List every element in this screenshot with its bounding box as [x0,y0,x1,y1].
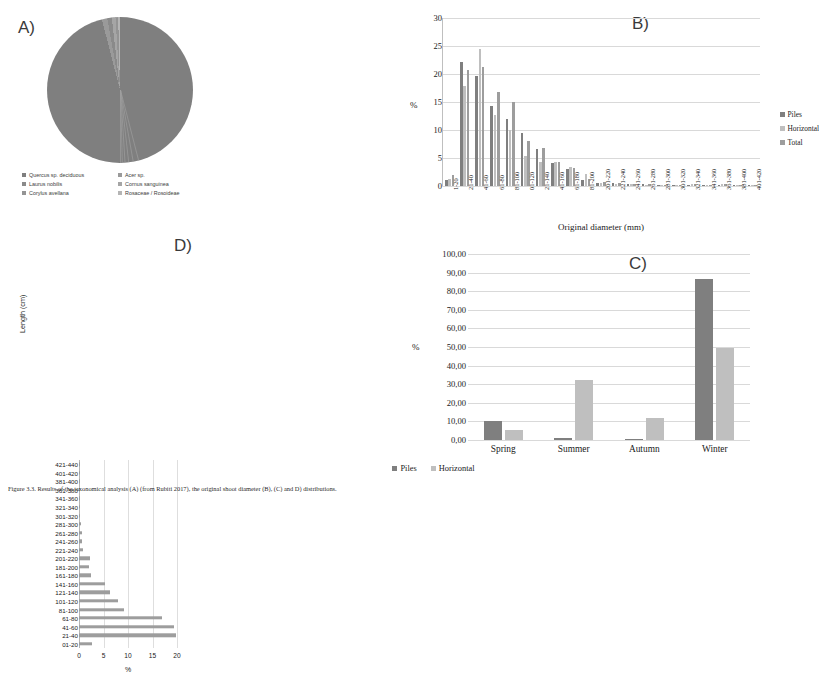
legend-label: Horizontal [788,124,819,133]
legend-label: Piles [788,110,802,119]
category-label: 141-160 [55,580,78,587]
panel-c-x-tick-labels: SpringSummerAutumnWinter [468,444,750,460]
bar-group [624,18,639,186]
panel-b-y-axis: 051015202530 [420,12,442,192]
pie-legend-item: Rosaceae / Rosoideae [118,190,208,196]
bar [79,616,162,619]
bar-group [539,254,610,440]
bar [79,565,89,568]
bar [585,174,588,186]
x-tick-label: 21-40 [467,175,474,190]
panel-a-letter: A) [18,18,35,38]
x-tick-label: 241-260 [634,169,641,190]
y-tick-label: 40,00 [447,361,466,371]
bar [695,279,713,440]
bar [79,608,124,611]
bar [642,184,645,186]
x-tick-label: 1-20 [452,178,459,190]
x-tick-label: 81-200 [588,172,595,190]
x-tick-label: 201-220 [604,169,611,190]
bar-group [518,18,533,186]
bar [536,149,539,186]
legend-item: Horizontal [431,464,475,473]
pie-body [47,17,193,163]
bar [506,119,509,186]
y-tick-label: 15 [434,97,443,107]
bar [494,115,497,186]
legend-item: Piles [780,110,819,119]
category-label: 121-140 [55,589,78,596]
legend-label: Corylus avellana [29,190,69,196]
legend-swatch-icon [118,182,122,186]
y-tick-label: 70,00 [447,305,466,315]
x-tick-label: 221-240 [619,169,626,190]
category-label: 61-80 [62,615,78,622]
x-tick-label: Winter [702,444,728,454]
bar [475,76,478,186]
bar-group [593,18,608,186]
y-tick-label: 10,00 [447,416,466,426]
bar [718,185,721,186]
bar [79,497,80,500]
pie-legend-item: Corylus avellana [22,190,118,196]
bar [630,184,633,186]
bar [79,548,83,551]
bar [566,169,569,186]
bar-group [548,18,563,186]
bar [79,625,174,628]
bar-group [745,18,760,186]
legend-swatch-icon [780,112,785,117]
bar [79,480,80,483]
y-tick-label: 80,00 [447,286,466,296]
y-tick-label: 20,00 [447,398,466,408]
bar [575,380,593,440]
category-label: 01-20 [62,640,78,647]
bar [596,183,599,186]
bar [702,185,705,186]
bar [448,179,451,186]
category-label: 241-260 [55,538,78,545]
bar-group [442,18,457,186]
x-tick-label: 41-160 [558,172,565,190]
y-tick-label: 30 [434,13,443,23]
bar [645,185,648,186]
y-tick-label: 25 [434,41,443,51]
pie-legend-item: Cornus sanguinea [118,181,208,187]
panel-c-y-axis: 0,0010,0020,0030,0040,0050,0060,0070,008… [422,250,466,440]
bar [600,183,603,186]
bar [490,106,493,186]
legend-label: Piles [400,464,416,473]
bar [79,505,80,508]
panel-d-x-axis-title: % [79,666,177,673]
bar-group [699,18,714,186]
panel-a-pie-chart: A) Quercus sp. deciduousAcer sp.Laurus n… [0,0,210,228]
bar-group [715,18,730,186]
bar [569,167,572,186]
category-label: 161-180 [55,572,78,579]
category-label: 301-320 [55,512,78,519]
bar [539,162,542,186]
bar-group [487,18,502,186]
legend-label: Rosaceae / Rosoideae [125,190,180,196]
legend-swatch-icon [118,191,122,195]
panel-d-y-axis-title: Length (cm) [18,295,27,333]
bar [524,156,527,186]
x-tick-label: 20 [173,652,180,659]
x-tick-label: 0 [77,652,81,659]
grid-line [468,440,750,441]
panel-c-bar-chart: C) % 0,0010,0020,0030,0040,0050,0060,007… [206,232,661,484]
pie-chart [47,17,193,163]
bar [627,184,630,186]
bar-group [654,18,669,186]
legend-swatch-icon [392,466,397,471]
bar [79,582,105,585]
category-label: 401-420 [55,469,78,476]
x-tick-label: 01-120 [528,172,535,190]
bar [657,185,660,186]
category-label: 21-40 [62,632,78,639]
x-tick-label: 321-340 [694,169,701,190]
category-label: 261-280 [55,529,78,536]
bar [79,539,82,542]
bar [463,86,466,186]
